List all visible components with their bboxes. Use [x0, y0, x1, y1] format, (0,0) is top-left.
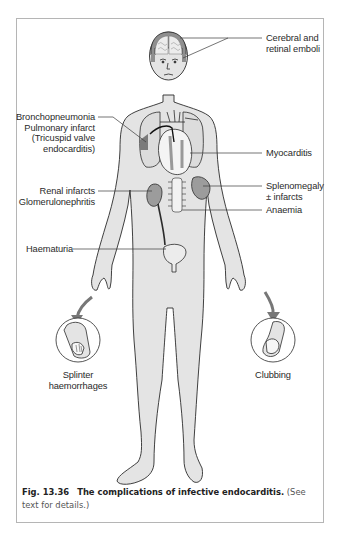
- label-line: ± infarcts: [266, 192, 324, 203]
- label-line: (Tricuspid valve: [0, 133, 95, 144]
- clubbing-inset: [251, 318, 295, 362]
- label-renal: Renal infarcts Glomerulonephritis: [0, 186, 95, 207]
- label-line: Renal infarcts: [0, 186, 95, 197]
- figure-caption: Fig. 13.36 The complications of infectiv…: [22, 486, 318, 511]
- label-haematuria: Haematuria: [26, 244, 73, 255]
- label-cerebral-emboli: Cerebral and retinal emboli: [266, 33, 320, 54]
- label-line: haemorrhages: [38, 381, 118, 392]
- label-line: Pulmonary infarct: [0, 123, 95, 134]
- label-bronchopneumonia: Bronchopneumonia Pulmonary infarct (Tric…: [0, 112, 95, 154]
- label-line: Bronchopneumonia: [0, 112, 95, 123]
- figure-number: Fig. 13.36: [22, 487, 69, 497]
- body-diagram: [0, 0, 343, 533]
- label-line: Splinter: [38, 370, 118, 381]
- label-splenomegaly: Splenomegaly ± infarcts: [266, 181, 324, 202]
- label-myocarditis: Myocarditis: [266, 148, 312, 159]
- arrow-left: [77, 297, 92, 318]
- label-line: endocarditis): [0, 144, 95, 155]
- label-splinter-haemorrhages: Splinter haemorrhages: [38, 370, 118, 391]
- label-line: retinal emboli: [266, 44, 320, 55]
- splinter-inset: [56, 318, 100, 362]
- label-line: Cerebral and: [266, 33, 320, 44]
- figure-title: The complications of infective endocardi…: [77, 487, 284, 497]
- label-line: Splenomegaly: [266, 181, 324, 192]
- label-line: Glomerulonephritis: [0, 197, 95, 208]
- label-clubbing: Clubbing: [243, 370, 303, 381]
- arrow-right: [265, 292, 273, 314]
- label-anaemia: Anaemia: [266, 205, 302, 216]
